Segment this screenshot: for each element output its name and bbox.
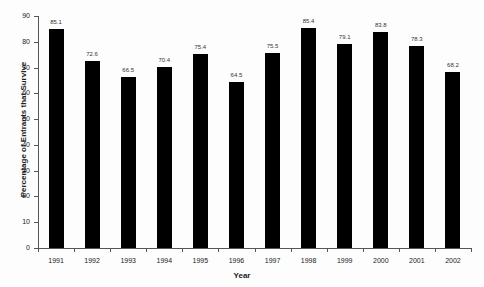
x-tick — [399, 248, 400, 252]
bar-value-label: 66.5 — [113, 67, 143, 73]
y-tick-label: 10 — [10, 218, 30, 225]
y-tick — [34, 222, 38, 223]
x-tick-label: 1991 — [38, 257, 74, 264]
bar-value-label: 75.5 — [258, 43, 288, 49]
bar-chart: Percentage of Entrants that Survive Year… — [0, 0, 484, 287]
y-tick-label: 50 — [10, 115, 30, 122]
bar-value-label: 64.5 — [221, 72, 251, 78]
bar-2000 — [373, 32, 388, 248]
bar-1996 — [229, 82, 244, 248]
x-tick — [110, 248, 111, 252]
y-tick — [34, 145, 38, 146]
y-tick — [34, 93, 38, 94]
x-tick-label: 1994 — [146, 257, 182, 264]
x-tick — [471, 248, 472, 252]
x-tick-label: 1997 — [255, 257, 291, 264]
bar-1999 — [337, 44, 352, 248]
y-tick — [34, 119, 38, 120]
x-tick — [218, 248, 219, 252]
x-tick — [38, 248, 39, 252]
bar-2002 — [445, 72, 460, 248]
x-tick — [182, 248, 183, 252]
bar-1991 — [49, 29, 64, 248]
bar-1992 — [85, 61, 100, 248]
y-tick — [34, 68, 38, 69]
y-tick-label: 80 — [10, 38, 30, 45]
bar-value-label: 72.6 — [77, 51, 107, 57]
bar-1994 — [157, 67, 172, 248]
bar-value-label: 85.4 — [294, 18, 324, 24]
bar-value-label: 70.4 — [149, 57, 179, 63]
x-tick — [363, 248, 364, 252]
y-tick-label: 20 — [10, 192, 30, 199]
bar-value-label: 79.1 — [330, 34, 360, 40]
x-tick-label: 1996 — [218, 257, 254, 264]
y-tick-label: 0 — [10, 244, 30, 251]
bar-value-label: 75.4 — [185, 44, 215, 50]
x-tick-label: 1992 — [74, 257, 110, 264]
x-tick — [255, 248, 256, 252]
x-tick-label: 2002 — [435, 257, 471, 264]
x-tick — [74, 248, 75, 252]
x-tick-label: 1999 — [327, 257, 363, 264]
bar-1997 — [265, 53, 280, 248]
y-tick-label: 60 — [10, 89, 30, 96]
bar-1998 — [301, 28, 316, 248]
y-tick-label: 40 — [10, 141, 30, 148]
x-tick — [146, 248, 147, 252]
x-tick — [327, 248, 328, 252]
x-tick-label: 1995 — [182, 257, 218, 264]
x-tick-label: 2000 — [363, 257, 399, 264]
bar-1993 — [121, 77, 136, 248]
y-axis-line — [38, 16, 39, 249]
bar-value-label: 78.3 — [402, 36, 432, 42]
x-tick-label: 2001 — [399, 257, 435, 264]
y-tick — [34, 16, 38, 17]
x-tick-label: 1998 — [291, 257, 327, 264]
y-tick-label: 30 — [10, 167, 30, 174]
bar-1995 — [193, 54, 208, 248]
y-tick — [34, 196, 38, 197]
x-tick — [435, 248, 436, 252]
x-tick-label: 1993 — [110, 257, 146, 264]
bar-value-label: 68.2 — [438, 62, 468, 68]
y-tick — [34, 42, 38, 43]
bar-value-label: 85.1 — [41, 19, 71, 25]
x-axis-label: Year — [0, 271, 484, 280]
y-tick-label: 70 — [10, 64, 30, 71]
y-tick-label: 90 — [10, 12, 30, 19]
bar-value-label: 83.8 — [366, 22, 396, 28]
bar-2001 — [409, 46, 424, 248]
y-tick — [34, 171, 38, 172]
x-tick — [291, 248, 292, 252]
